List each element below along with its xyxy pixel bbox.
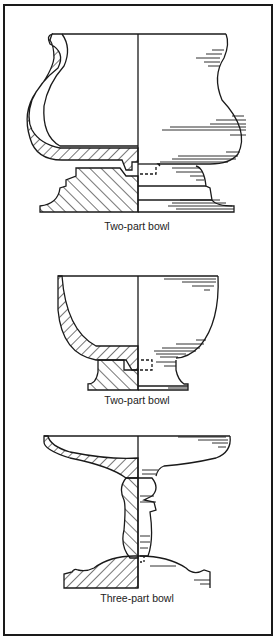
caption-bowl-3: Three-part bowl [0,592,274,604]
bowl-1-drawing [27,34,246,212]
bowl-3-drawing [44,436,230,588]
caption-bowl-1: Two-part bowl [0,220,274,232]
bowl-drawings [0,0,274,637]
bowl-2-drawing [58,276,218,390]
caption-bowl-2: Two-part bowl [0,394,274,406]
